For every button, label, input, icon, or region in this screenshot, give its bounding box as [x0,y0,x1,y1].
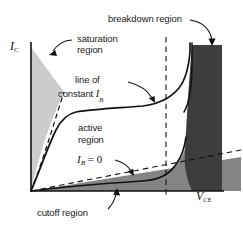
breakdown-region-block [192,45,222,191]
constant-ib-leader-line [128,82,152,98]
saturation-leader-line [53,40,72,51]
breakdown-leader-arrowhead [208,39,215,46]
bjt-characteristic-figure: breakdown region saturation region line … [0,0,243,225]
x-axis-label: VCE [196,189,212,204]
y-axis-subscript: C [14,46,19,54]
ib-zero-label: IB = 0 [77,153,102,165]
constant-ib-label-line2: constant IB [58,88,103,104]
constant-ib-label-line1: line of [75,74,100,86]
ib-zero-equals: = 0 [85,153,102,165]
active-region-label-line1: active [78,122,102,134]
constant-ib-label-prefix: constant [58,88,96,99]
ib-zero-leader-line [115,160,131,171]
constant-ib-label-subscript: B [99,96,103,104]
breakdown-leader-line [190,20,212,40]
y-axis-label: IC [10,39,19,54]
saturation-region-fill [31,47,64,191]
saturation-region-label-line2: region [77,44,103,56]
saturation-region-label-line1: saturation [77,33,118,45]
x-axis-subscript: CE [203,196,211,203]
ib-zero-subscript: B [81,159,85,167]
breakdown-region-label: breakdown region [108,13,182,25]
cutoff-leader-line [108,194,116,209]
active-region-label-line2: region [78,134,104,146]
cutoff-region-label: cutoff region [37,207,88,219]
